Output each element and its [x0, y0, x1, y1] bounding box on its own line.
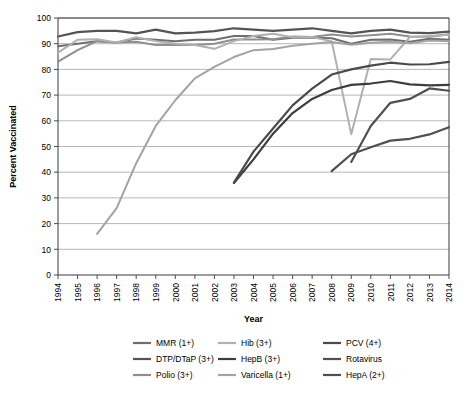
series-lines — [58, 28, 449, 234]
x-tick-label: 1998 — [131, 283, 141, 302]
series-line-pcv-4 — [234, 62, 449, 183]
x-tick-label: 1999 — [151, 283, 161, 302]
series-line-hib-3 — [58, 34, 449, 134]
legend-label-mmr-1: MMR (1+) — [156, 338, 194, 348]
series-line-rotavirus — [351, 88, 449, 162]
x-tick-label: 2004 — [249, 283, 259, 302]
y-axis-ticks: 0102030405060708090100 — [37, 13, 58, 280]
y-tick-label: 80 — [42, 65, 52, 75]
y-tick-label: 100 — [37, 13, 51, 23]
y-axis-title: Percent Vaccinated — [8, 105, 18, 188]
y-tick-label: 0 — [46, 270, 51, 280]
x-tick-label: 2006 — [288, 283, 298, 302]
x-tick-label: 2001 — [190, 283, 200, 302]
y-tick-label: 90 — [42, 39, 52, 49]
chart-legend: MMR (1+)Hib (3+)PCV (4+)DTP/DTaP (3+)Hep… — [133, 338, 385, 380]
x-tick-label: 1997 — [112, 283, 122, 302]
y-tick-label: 20 — [42, 219, 52, 229]
x-tick-label: 1995 — [73, 283, 83, 302]
legend-label-varicella-1: Varicella (1+) — [241, 370, 291, 380]
y-tick-label: 60 — [42, 116, 52, 126]
x-tick-label: 2012 — [405, 283, 415, 302]
grid-lines — [58, 18, 449, 249]
y-tick-label: 70 — [42, 90, 52, 100]
x-tick-label: 2008 — [327, 283, 337, 302]
legend-label-hib-3: Hib (3+) — [241, 338, 272, 348]
y-tick-label: 10 — [42, 245, 52, 255]
series-line-hepa-2 — [332, 127, 449, 171]
x-tick-label: 2014 — [444, 283, 454, 302]
x-axis-title-text: Year — [244, 314, 264, 324]
series-line-polio-3 — [58, 34, 449, 62]
vaccination-line-chart: 0102030405060708090100 19941995199619971… — [0, 0, 468, 393]
x-axis-title: Year — [244, 314, 264, 324]
y-tick-label: 50 — [42, 142, 52, 152]
x-tick-label: 2007 — [307, 283, 317, 302]
x-axis-ticks: 1994199519961997199819992000200120022003… — [53, 275, 454, 302]
legend-label-rotavirus: Rotavirus — [346, 354, 382, 364]
legend-label-hepb-3: HepB (3+) — [241, 354, 280, 364]
x-tick-label: 2005 — [268, 283, 278, 302]
x-tick-label: 1996 — [92, 283, 102, 302]
legend-label-hepa-2: HepA (2+) — [346, 370, 385, 380]
legend-label-pcv-4: PCV (4+) — [346, 338, 381, 348]
chart-page: 0102030405060708090100 19941995199619971… — [0, 0, 468, 393]
x-tick-label: 2002 — [210, 283, 220, 302]
legend-label-polio-3: Polio (3+) — [156, 370, 193, 380]
y-tick-label: 30 — [42, 193, 52, 203]
x-tick-label: 2000 — [171, 283, 181, 302]
x-tick-label: 2011 — [386, 283, 396, 302]
x-tick-label: 2003 — [229, 283, 239, 302]
y-tick-label: 40 — [42, 167, 52, 177]
x-tick-label: 2013 — [425, 283, 435, 302]
x-tick-label: 2010 — [366, 283, 376, 302]
x-tick-label: 2009 — [346, 283, 356, 302]
x-tick-label: 1994 — [53, 283, 63, 302]
y-axis-title-text: Percent Vaccinated — [8, 105, 18, 188]
legend-label-dtp-dtap-3: DTP/DTaP (3+) — [156, 354, 214, 364]
